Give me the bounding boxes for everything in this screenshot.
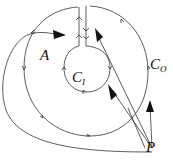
diagram-drawing bbox=[0, 0, 173, 160]
arrow-head-loop bbox=[53, 30, 66, 39]
inner-contour bbox=[64, 46, 110, 92]
label-C-I-sub: I bbox=[82, 77, 85, 87]
label-P: P bbox=[146, 140, 155, 155]
label-C-O-main: C bbox=[150, 56, 160, 72]
arrow-head-1 bbox=[95, 28, 103, 42]
label-A: A bbox=[40, 48, 49, 63]
diagram: A CI CO P bbox=[0, 0, 173, 160]
label-C-O: CO bbox=[150, 57, 167, 72]
label-C-O-sub: O bbox=[160, 64, 167, 74]
label-C-I-main: C bbox=[72, 69, 82, 85]
loop-path bbox=[3, 32, 152, 152]
arrow-head-3 bbox=[146, 100, 154, 112]
arrow-head-2 bbox=[108, 84, 117, 100]
label-C-I: CI bbox=[72, 70, 85, 85]
